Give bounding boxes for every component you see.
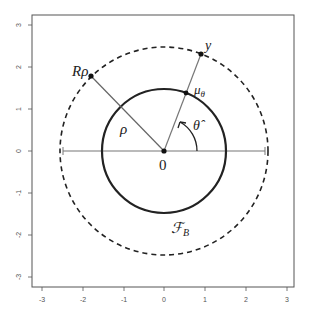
point-R-rho <box>88 73 93 78</box>
R-symbol: R <box>71 63 81 79</box>
theta-hat-label: θ̂ <box>193 118 206 133</box>
y-axis <box>28 25 32 277</box>
x-tick-label: -3 <box>39 296 45 303</box>
x-axis <box>42 287 287 291</box>
mu-label: μθ <box>193 82 206 99</box>
point-y <box>198 51 203 56</box>
rho-symbol: ρ <box>80 63 88 79</box>
x-tick-label: 3 <box>285 296 289 303</box>
y-tick-label: 0 <box>15 149 22 153</box>
x-tick-labels: -3 -2 -1 0 1 2 3 <box>39 296 289 303</box>
y-tick-label: -2 <box>15 232 22 238</box>
y-tick-label: -1 <box>15 190 22 196</box>
y-tick-label: 1 <box>15 107 22 111</box>
y-tick-labels: -3 -2 -1 0 1 2 3 <box>15 23 22 280</box>
x-tick-label: 0 <box>162 296 166 303</box>
y-label: y <box>203 38 212 53</box>
x-tick-label: 1 <box>203 296 207 303</box>
origin-label: 0 <box>159 157 167 173</box>
x-tick-label: -2 <box>80 296 86 303</box>
FB-label: ℱB <box>171 220 189 238</box>
y-tick-label: -3 <box>15 274 22 280</box>
mu-subscript: θ <box>201 89 206 99</box>
F-subscript: B <box>183 227 189 238</box>
point-mu-theta <box>184 91 189 96</box>
y-tick-label: 2 <box>15 65 22 69</box>
R-rho-label: Rρ <box>71 63 88 79</box>
diagram-canvas: -3 -2 -1 0 1 2 3 -3 -2 -1 0 1 2 3 <box>0 0 312 321</box>
y-tick-label: 3 <box>15 23 22 27</box>
ray-to-y <box>164 54 201 151</box>
rho-label: ρ <box>119 121 127 137</box>
origin-point <box>161 148 166 153</box>
x-tick-label: 2 <box>244 296 248 303</box>
x-tick-label: -1 <box>121 296 127 303</box>
